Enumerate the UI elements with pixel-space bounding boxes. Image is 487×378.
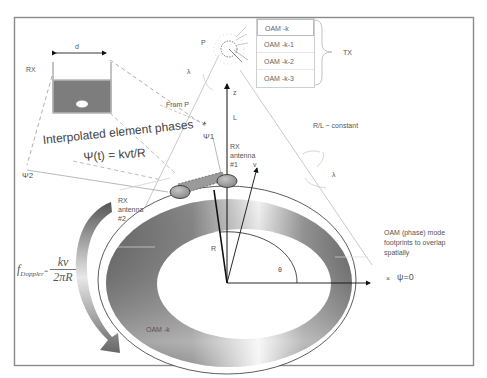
ring-inner-hole [157, 229, 331, 339]
doppler-frequency-symbol: fDoppler= [17, 262, 48, 278]
point-p-label: P [201, 38, 206, 47]
oam-mode-item: OAM -k-1 [257, 36, 314, 53]
psi1-label: Ψ1 [203, 132, 214, 141]
footprint-note: OAM (phase) mode footprints to overlap s… [384, 228, 445, 258]
length-l-label: L [233, 113, 237, 122]
from-p-label: From P [166, 100, 189, 109]
rx-antenna-2-ellipse [170, 186, 190, 199]
rx-panel-spot [76, 101, 88, 108]
rx-label: RX [26, 65, 36, 74]
rx-antenna-1-line1: RX [230, 142, 255, 151]
psi2-label: Ψ2 [22, 171, 33, 180]
rx-antenna-2-line2: antenna [118, 205, 143, 214]
doppler-denominator: 2πR [50, 270, 76, 284]
oam-mode-item: OAM -k [257, 19, 314, 36]
z-axis-label: z [233, 88, 237, 97]
radius-label: R [211, 244, 216, 253]
oam-mode-item: OAM -k-3 [257, 70, 314, 87]
wavelength-label-right: λ [332, 170, 336, 179]
footprint-note-line2: footprints to overlap [384, 238, 445, 248]
rx-antenna-1-label: RX antenna #1 [230, 142, 255, 169]
theta-label: θ [278, 265, 282, 274]
psi-zero-label: ψ=0 [397, 273, 414, 282]
rx-antenna-2-line1: RX [118, 196, 143, 205]
footprint-note-line3: spatially [384, 248, 445, 258]
rx-panel [53, 80, 111, 113]
doppler-numerator: kv [50, 255, 76, 270]
spacing-d-label: d [75, 42, 79, 51]
psi-zero-marker-icon: × [386, 274, 390, 283]
wavelength-label-tx: λ [187, 67, 191, 76]
doppler-subscript: Doppler [20, 270, 43, 278]
oam-ring-label: OAM -k [146, 325, 170, 334]
rx-antenna-1-ellipse [217, 175, 237, 188]
oam-mode-item: OAM -k-2 [257, 53, 314, 70]
rx-antenna-1-line3: #1 [230, 160, 255, 169]
tx-oam-mode-list: OAM -k OAM -k-1 OAM -k-2 OAM -k-3 [256, 18, 315, 88]
rx-antenna-1-line2: antenna [230, 151, 255, 160]
rx-antenna-2-line3: #2 [118, 214, 143, 223]
tx-label: TX [343, 48, 352, 57]
doppler-equals: = [44, 267, 49, 275]
velocity-label: v [253, 160, 257, 169]
rx-antenna-2-label: RX antenna #2 [118, 196, 143, 223]
ratio-constant-label: R/L ~ constant [313, 121, 358, 130]
doppler-fraction: kv 2πR [50, 255, 76, 284]
footprint-note-line1: OAM (phase) mode [384, 228, 445, 238]
oam-diagram-canvas [0, 0, 487, 378]
